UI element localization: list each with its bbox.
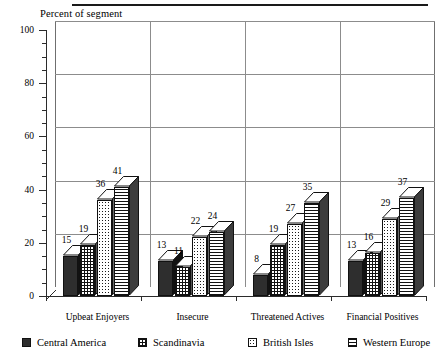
bar-insecure-scandinavia: [175, 267, 190, 296]
value-label: 35: [303, 182, 313, 192]
legend-swatch-icon: [22, 338, 31, 347]
y-tick-55: [42, 150, 46, 151]
bar-upbeat-enjoyers-scandinavia: [80, 245, 95, 296]
legend-swatch-icon: [348, 338, 357, 347]
bar-front-face: [382, 219, 397, 296]
bar-front-face: [270, 245, 285, 296]
bar-front-face: [399, 198, 414, 296]
y-tick-70: [42, 110, 46, 111]
bar-front-face: [209, 232, 224, 296]
y-tick-0: [39, 296, 46, 297]
bar-side-face: [224, 221, 235, 296]
value-label: 37: [398, 177, 408, 187]
x-tick-0: [46, 296, 47, 301]
y-tick-85: [42, 70, 46, 71]
y-tick-20: [39, 243, 46, 244]
bar-threatened-actives-british-isles: [287, 224, 302, 296]
value-label: 16: [364, 232, 374, 242]
value-label: 19: [79, 224, 89, 234]
bar-front-face: [114, 187, 129, 296]
origin-depth-edge: [46, 287, 59, 300]
bar-side-face: [414, 187, 425, 296]
y-tick-45: [42, 176, 46, 177]
y-tick-label-100: 100: [4, 25, 34, 35]
category-label-upbeat-enjoyers: Upbeat Enjoyers: [66, 312, 130, 322]
category-label-threatened-actives: Threatened Actives: [251, 312, 325, 322]
bar-front-face: [97, 200, 112, 296]
value-label: 11: [174, 246, 183, 256]
legend-item-western-europe: Western Europe: [348, 337, 430, 348]
bar-financial-positives-western-europe: [399, 198, 414, 296]
bar-front-face: [80, 245, 95, 296]
x-tick-4: [426, 296, 427, 301]
legend-label: Scandinavia: [153, 337, 204, 348]
bar-upbeat-enjoyers-western-europe: [114, 187, 129, 296]
y-tick-30: [42, 216, 46, 217]
y-tick-label-40: 40: [4, 185, 34, 195]
value-label: 41: [113, 166, 123, 176]
bar-front-face: [304, 203, 319, 296]
y-tick-90: [42, 57, 46, 58]
value-label: 36: [96, 179, 106, 189]
value-label: 15: [62, 235, 72, 245]
bar-front-face: [348, 261, 363, 296]
bar-insecure-central-america: [158, 261, 173, 296]
y-tick-50: [42, 163, 46, 164]
y-tick-label-60: 60: [4, 131, 34, 141]
legend-label: Central America: [37, 337, 106, 348]
group-separator-3: [340, 21, 341, 287]
y-axis-line: [46, 30, 47, 297]
bar-insecure-western-europe: [209, 232, 224, 296]
bar-financial-positives-british-isles: [382, 219, 397, 296]
y-tick-25: [42, 230, 46, 231]
bar-threatened-actives-central-america: [253, 275, 268, 296]
y-tick-10: [42, 269, 46, 270]
legend-swatch-icon: [248, 338, 257, 347]
bar-threatened-actives-western-europe: [304, 203, 319, 296]
y-tick-75: [42, 97, 46, 98]
category-label-financial-positives: Financial Positives: [346, 312, 418, 322]
bar-financial-positives-central-america: [348, 261, 363, 296]
category-label-insecure: Insecure: [176, 312, 208, 322]
bar-insecure-british-isles: [192, 237, 207, 296]
y-tick-80: [39, 83, 46, 84]
value-label: 13: [157, 240, 167, 250]
bar-front-face: [192, 237, 207, 296]
bar-upbeat-enjoyers-british-isles: [97, 200, 112, 296]
value-label: 19: [269, 224, 279, 234]
y-tick-15: [42, 256, 46, 257]
y-tick-60: [39, 136, 46, 137]
value-label: 29: [381, 198, 391, 208]
y-tick-100: [39, 30, 46, 31]
value-label: 24: [208, 211, 218, 221]
y-tick-5: [42, 283, 46, 284]
y-tick-35: [42, 203, 46, 204]
x-tick-1: [141, 296, 142, 301]
top-rule-divider: [72, 4, 428, 6]
y-tick-label-0: 0: [4, 291, 34, 301]
chart-legend: Central AmericaScandinaviaBritish IslesW…: [0, 334, 434, 354]
bar-front-face: [365, 253, 380, 296]
value-label: 27: [286, 203, 296, 213]
bar-front-face: [63, 256, 78, 296]
x-tick-2: [236, 296, 237, 301]
value-label: 8: [254, 254, 259, 264]
bar-front-face: [175, 267, 190, 296]
bar-side-face: [319, 192, 330, 296]
y-axis-title: Percent of segment: [40, 8, 122, 19]
y-tick-95: [42, 43, 46, 44]
bar-side-face: [129, 176, 140, 296]
bar-front-face: [253, 275, 268, 296]
plot-area: 020406080100 151936411311222481927351316…: [46, 30, 426, 296]
group-separator-1: [150, 21, 151, 287]
bar-threatened-actives-scandinavia: [270, 245, 285, 296]
bar-front-face: [158, 261, 173, 296]
bar-financial-positives-scandinavia: [365, 253, 380, 296]
legend-item-british-isles: British Isles: [248, 337, 313, 348]
bar-front-face: [287, 224, 302, 296]
y-tick-label-20: 20: [4, 238, 34, 248]
legend-label: Western Europe: [363, 337, 430, 348]
legend-item-central-america: Central America: [22, 337, 106, 348]
value-label: 22: [191, 216, 201, 226]
